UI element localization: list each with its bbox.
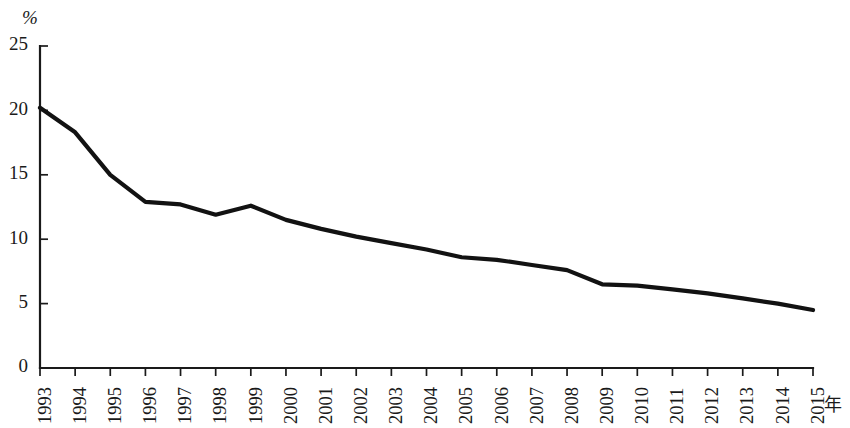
y-axis-tick-label: 5 — [19, 291, 29, 312]
x-axis-tick-label: 1999 — [246, 387, 266, 424]
x-axis-tick-label: 2007 — [527, 387, 547, 424]
y-axis-tick-label: 25 — [9, 33, 28, 54]
x-axis-tick-label: 2014 — [773, 387, 793, 424]
y-axis-unit-label: % — [22, 7, 38, 28]
x-axis-tick-label: 2003 — [386, 387, 406, 424]
x-axis-tick-label: 2005 — [456, 387, 476, 424]
x-axis-tick-label: 1995 — [105, 387, 125, 424]
y-axis-tick-label: 15 — [9, 162, 28, 183]
x-axis-tick-label: 2008 — [562, 387, 582, 424]
y-axis-tick-label: 20 — [9, 98, 28, 119]
x-axis-tick-label: 2010 — [632, 387, 652, 424]
x-axis-tick-label: 1997 — [175, 387, 195, 424]
chart-background — [0, 0, 850, 428]
x-axis-tick-label: 1996 — [140, 387, 160, 424]
chart-canvas: 0510152025 19931994199519961997199819992… — [0, 0, 850, 428]
x-axis-tick-label: 1994 — [70, 387, 90, 424]
x-axis-name-label: 年 — [824, 395, 842, 415]
x-axis-tick-labels: 1993199419951996199719981999200020012002… — [35, 387, 828, 424]
x-axis-tick-label: 2006 — [492, 387, 512, 424]
x-axis-tick-label: 2001 — [316, 387, 336, 424]
x-axis-tick-label: 2011 — [667, 388, 687, 424]
x-axis-tick-label: 2000 — [281, 387, 301, 424]
x-axis-tick-label: 2009 — [597, 387, 617, 424]
line-chart: 0510152025 19931994199519961997199819992… — [0, 0, 850, 428]
x-axis-tick-label: 2012 — [702, 387, 722, 424]
x-axis-tick-label: 2004 — [421, 387, 441, 424]
x-axis-tick-label: 1998 — [210, 387, 230, 424]
y-axis-tick-label: 0 — [19, 355, 29, 376]
x-axis-tick-label: 2013 — [737, 387, 757, 424]
x-axis-tick-label: 1993 — [35, 387, 55, 424]
y-axis-tick-label: 10 — [9, 227, 28, 248]
x-axis-tick-label: 2002 — [351, 387, 371, 424]
